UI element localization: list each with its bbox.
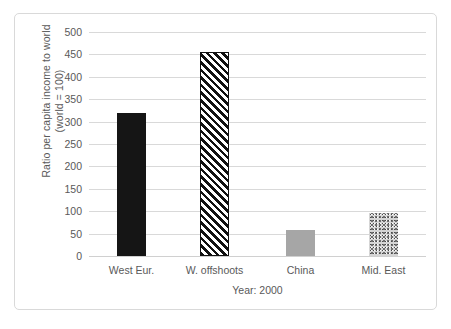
y-tick-label-250: 250 — [64, 138, 82, 150]
y-tick-label-500: 500 — [64, 26, 82, 38]
bar-w-offshoots[interactable] — [200, 52, 229, 256]
bar-mid-east[interactable] — [369, 213, 398, 257]
x-tick-label-w-offshoots: W. offshoots — [186, 264, 244, 276]
gridline-450: 450 — [89, 54, 426, 55]
y-tick-label-350: 350 — [64, 93, 82, 105]
y-tick-label-100: 100 — [64, 205, 82, 217]
y-tick-label-300: 300 — [64, 116, 82, 128]
gridline-400: 400 — [89, 77, 426, 78]
y-tick-label-150: 150 — [64, 183, 82, 195]
gridline-350: 350 — [89, 99, 426, 100]
y-tick-label-400: 400 — [64, 71, 82, 83]
x-tick-label-china: China — [287, 264, 314, 276]
axis-line-zero: 0 — [89, 256, 426, 257]
y-tick-label-450: 450 — [64, 48, 82, 60]
bar-west-eur[interactable] — [117, 113, 146, 256]
x-axis-title: Year: 2000 — [89, 284, 426, 296]
y-tick-label-0: 0 — [76, 250, 82, 262]
y-tick-label-200: 200 — [64, 160, 82, 172]
gridline-500: 500 — [89, 32, 426, 33]
x-tick-label-mid-east: Mid. East — [362, 264, 406, 276]
y-tick-label-50: 50 — [70, 228, 82, 240]
plot-area: 500 450 400 350 300 250 200 150 100 50 0… — [89, 32, 426, 256]
chart-container: Ratio per capita income to world (world … — [14, 13, 437, 310]
x-tick-label-west-eur: West Eur. — [109, 264, 154, 276]
bar-china[interactable] — [286, 230, 315, 256]
y-axis-title-line-1: Ratio per capita income to world — [40, 11, 53, 191]
